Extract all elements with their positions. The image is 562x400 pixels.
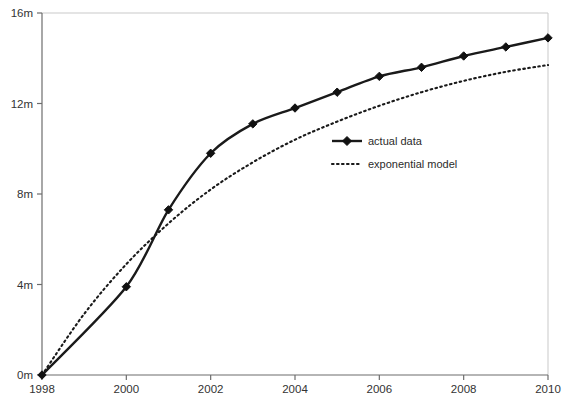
x-tick-label: 2002 (198, 383, 224, 395)
y-tick-label: 0m (17, 369, 33, 381)
data-point-marker (291, 104, 299, 112)
y-axis-ticks: 0m4m8m12m16m (11, 7, 42, 381)
data-point-marker (502, 43, 510, 51)
data-point-marker (375, 72, 383, 80)
x-tick-label: 2004 (282, 383, 308, 395)
data-point-marker (417, 63, 425, 71)
x-tick-label: 2008 (451, 383, 477, 395)
x-tick-label: 2010 (535, 383, 561, 395)
axis-lines (42, 13, 548, 375)
x-axis-ticks: 1998200020022004200620082010 (29, 375, 561, 395)
series-actual-data-markers (38, 34, 552, 380)
legend-label-exponential-model: exponential model (368, 158, 457, 170)
chart-legend: actual data exponential model (332, 135, 457, 170)
x-tick-label: 1998 (29, 383, 55, 395)
series-actual-data (42, 38, 548, 375)
data-point-marker (333, 88, 341, 96)
y-tick-label: 12m (11, 98, 33, 110)
legend-label-actual-data: actual data (368, 135, 423, 147)
data-point-marker (459, 52, 467, 60)
line-chart: 0m4m8m12m16m 199820002002200420062008201… (0, 0, 562, 400)
legend-marker-actual-data-icon (343, 137, 352, 146)
y-tick-label: 8m (17, 188, 33, 200)
data-point-marker (544, 34, 552, 42)
plot-frame (42, 13, 548, 375)
x-tick-label: 2006 (367, 383, 393, 395)
plot-frame-border (42, 13, 548, 375)
y-tick-label: 4m (17, 279, 33, 291)
x-tick-label: 2000 (114, 383, 140, 395)
y-tick-label: 16m (11, 7, 33, 19)
chart-canvas: 0m4m8m12m16m 199820002002200420062008201… (0, 0, 562, 400)
